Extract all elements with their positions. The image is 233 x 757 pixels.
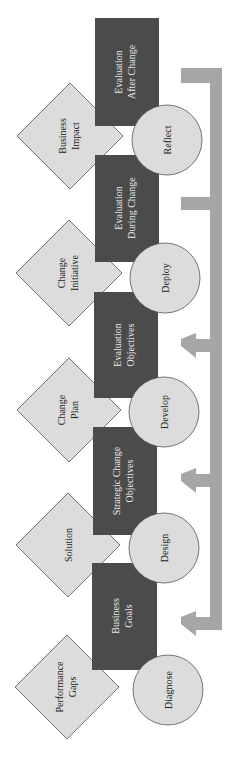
label-business-goals-1: Business <box>110 598 121 634</box>
label-evaluation-during-change-1: Evaluation <box>113 186 124 229</box>
label-change-initiative-1: Change <box>56 257 67 288</box>
label-strategic-change-objectives-1: Strategic Change <box>111 446 122 515</box>
label-strategic-change-objectives-2: Objectives <box>124 460 135 503</box>
label-change-plan-1: Change <box>56 394 67 425</box>
arrow-to-evaluation-objectives <box>181 333 210 358</box>
label-design: Design <box>159 534 170 562</box>
label-change-initiative-2: Initiative <box>69 254 80 291</box>
label-develop: Develop <box>159 395 170 429</box>
label-performance-gaps-2: Gaps <box>67 677 78 698</box>
label-evaluation-after-change-1: Evaluation <box>113 50 124 93</box>
label-solution: Solution <box>63 528 74 562</box>
label-evaluation-during-change-2: During Change <box>126 177 137 239</box>
label-business-impact-2: Impact <box>70 122 81 150</box>
arrow-to-strategic-objectives <box>181 468 210 493</box>
label-business-impact-1: Business <box>57 118 68 154</box>
label-business-goals-2: Goals <box>123 604 134 627</box>
label-change-plan-2: Plan <box>69 401 80 419</box>
label-evaluation-objectives-2: Objectives <box>125 324 136 367</box>
label-reflect: Reflect <box>162 125 173 154</box>
label-evaluation-objectives-1: Evaluation <box>112 323 123 366</box>
label-performance-gaps-1: Performance <box>54 661 65 713</box>
label-evaluation-after-change-2: After Change <box>126 44 137 99</box>
label-deploy: Deploy <box>160 263 171 292</box>
label-diagnose: Diagnose <box>163 671 174 709</box>
change-evaluation-diagram: Reflect Deploy Develop Design Diagnose E… <box>0 0 233 757</box>
